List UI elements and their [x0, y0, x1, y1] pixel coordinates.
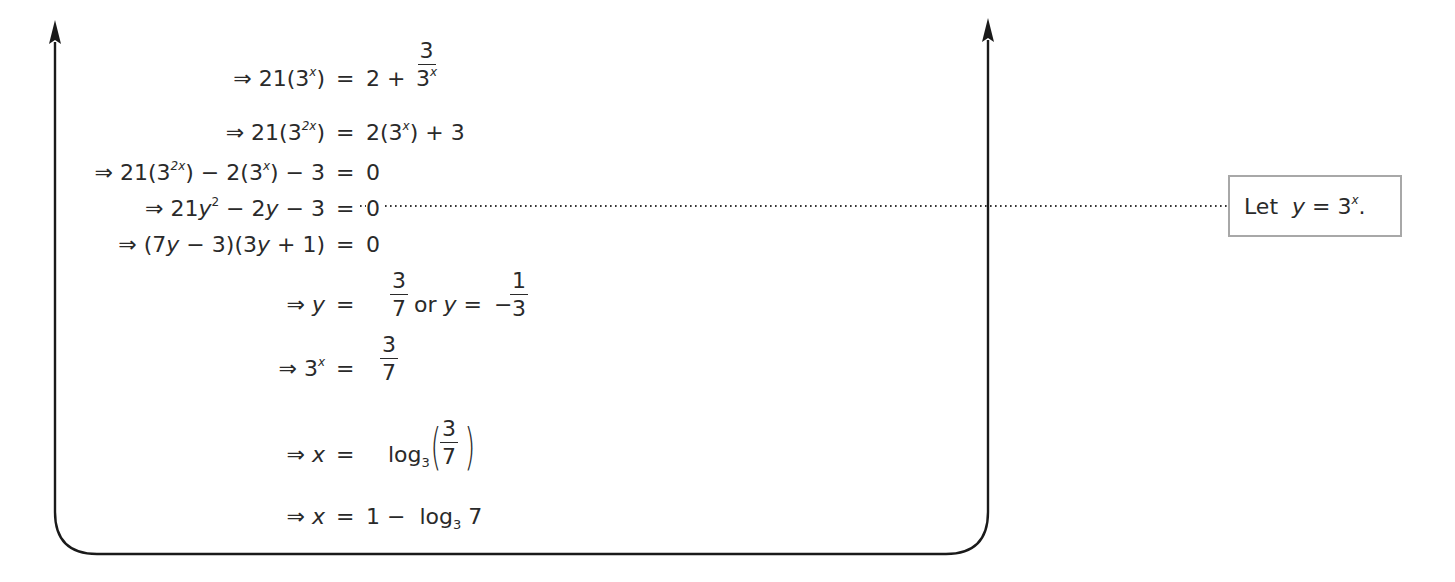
step-3-rhs: 0 — [366, 160, 380, 185]
step-6-lhs: ⇒ y — [287, 292, 325, 317]
step-6: ⇒ y = 3 7 or y = − 1 3 — [0, 282, 1455, 342]
step-1-lhs: ⇒ 21(3x) — [233, 66, 325, 91]
step-5-lhs: ⇒ (7y − 3)(3y + 1) — [118, 232, 325, 257]
step-8-eq: = — [336, 442, 354, 467]
step-4-lhs: ⇒ 21y2 − 2y − 3 — [145, 196, 325, 221]
step-3-eq: = — [336, 160, 354, 185]
step-6-fraction-1: 3 7 — [390, 270, 408, 320]
step-5: ⇒ (7y − 3)(3y + 1) = 0 — [0, 232, 1455, 272]
step-8-lhs: ⇒ x — [287, 442, 325, 467]
step-8-fraction: 3 7 — [440, 418, 458, 468]
step-1-eq: = — [336, 66, 354, 91]
step-3-lhs: ⇒ 21(32x) − 2(3x) − 3 — [95, 160, 325, 185]
step-7-eq: = — [336, 356, 354, 381]
step-6-eq: = — [336, 292, 354, 317]
step-1-rhs: 2 + — [366, 66, 405, 91]
step-1: ⇒ 21(3x) = 2 + 3 3x — [0, 62, 1455, 102]
annotation-text: Let y = 3x. — [1244, 194, 1366, 219]
step-9: ⇒ x = 1 − log3 7 — [0, 504, 1455, 544]
step-2-lhs: ⇒ 21(32x) — [226, 120, 325, 145]
annotation-box: Let y = 3x. — [1228, 175, 1402, 237]
step-8-log: log3 — [388, 442, 430, 467]
left-arrow-icon — [49, 20, 61, 44]
step-2: ⇒ 21(32x) = 2(3x) + 3 — [0, 120, 1455, 160]
step-9-rhs: 1 − log3 7 — [366, 504, 482, 529]
step-8: ⇒ x = log3 ( 3 7 ) — [0, 440, 1455, 500]
step-9-eq: = — [336, 504, 354, 529]
step-6-or: or y = — [414, 292, 482, 317]
step-2-eq: = — [336, 120, 354, 145]
right-arrow-icon — [982, 18, 994, 42]
step-4-rhs: 0 — [366, 196, 384, 221]
step-2-rhs: 2(3x) + 3 — [366, 120, 465, 145]
step-7-fraction: 3 7 — [380, 334, 398, 384]
step-7: ⇒ 3x = 3 7 — [0, 352, 1455, 412]
step-6-fraction-2: 1 3 — [510, 270, 528, 320]
step-4-eq: = — [336, 196, 354, 221]
step-1-fraction: 3 3x — [416, 40, 437, 90]
step-5-rhs: 0 — [366, 232, 380, 257]
step-9-lhs: ⇒ x — [287, 504, 325, 529]
step-5-eq: = — [336, 232, 354, 257]
step-7-lhs: ⇒ 3x — [278, 356, 325, 381]
step-8-right-paren: ) — [464, 422, 475, 472]
